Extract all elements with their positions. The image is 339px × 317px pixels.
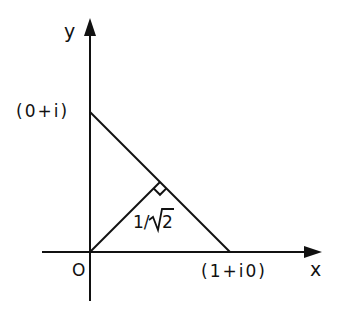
right-angle-marker — [154, 188, 167, 194]
distance-label-radicand: 2 — [162, 212, 173, 232]
complex-plane-diagram: y x O (0+i) (1+i0) 1/ 2 — [0, 0, 339, 317]
y-axis-label: y — [64, 20, 75, 42]
x-intercept-label: (1+i0) — [201, 261, 267, 281]
distance-label-numerator: 1/ — [133, 212, 150, 232]
x-axis-arrowhead — [304, 246, 322, 258]
distance-label: 1/ 2 — [133, 209, 174, 232]
y-intercept-label: (0+i) — [16, 101, 69, 121]
y-axis-arrowhead — [84, 18, 96, 36]
x-axis-label: x — [310, 258, 321, 280]
origin-label: O — [72, 260, 85, 280]
